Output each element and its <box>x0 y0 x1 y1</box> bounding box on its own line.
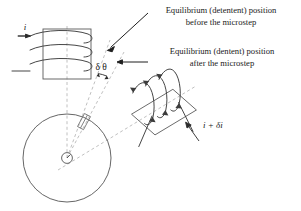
callout-label-after-line2: after the microstep <box>190 58 254 68</box>
left-coil-windings <box>12 30 92 71</box>
left-winding-3 <box>30 58 92 71</box>
callout-arrow-before <box>107 13 148 52</box>
equilibrium-before-dashed <box>67 40 110 158</box>
angle-arc <box>98 74 107 77</box>
winding-arrowhead-6 <box>175 103 181 108</box>
left-winding-2 <box>30 44 92 57</box>
callout-label-before: Equilibrium (detentent) position before … <box>166 5 277 27</box>
right-winding-3 <box>159 69 180 111</box>
angle-label: δ θ <box>96 62 108 72</box>
current-in-label: i <box>24 22 27 32</box>
winding-arrowhead-5 <box>162 110 168 115</box>
right-winding-2 <box>146 76 167 118</box>
callout-label-before-line1: Equilibrium (detentent) position <box>166 5 277 15</box>
callout-arrow-before-shaft <box>111 13 149 48</box>
callout-label-before-line2: before the microstep <box>186 17 257 27</box>
current-out-label: i + δi <box>203 120 223 130</box>
current-in-arrow-head <box>26 34 31 38</box>
current-in-arrow <box>18 34 31 38</box>
callout-label-after-line1: Equilibrium (dentent) position <box>170 46 275 56</box>
microstep-diagram: i i <box>0 0 301 211</box>
figure-container: i i <box>0 0 301 211</box>
callout-label-after: Equilibrium (dentent) position after the… <box>170 46 275 68</box>
angle-indicator <box>97 73 109 79</box>
winding-arrowhead-1 <box>130 87 136 92</box>
right-winding-arrowheads <box>130 74 182 122</box>
current-out-arrow-shaft <box>188 125 199 141</box>
right-stator-axis-dashed <box>58 86 196 170</box>
current-out-arrow <box>186 122 199 141</box>
left-winding-1 <box>30 30 92 43</box>
angle-arc-tick-right <box>104 76 108 79</box>
callout-arrow-after <box>117 60 148 64</box>
